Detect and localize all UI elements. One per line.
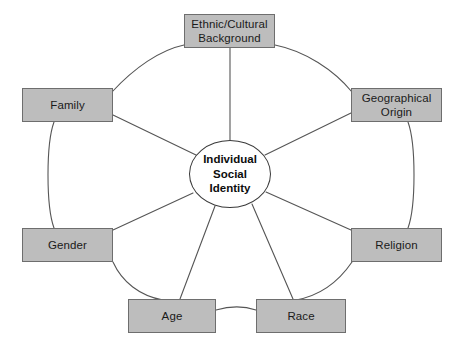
node-religion[interactable]: Religion [351,228,442,262]
node-age[interactable]: Age [128,299,216,333]
node-family[interactable]: Family [22,88,113,122]
node-label-gender: Gender [45,238,90,252]
node-label-family: Family [47,98,87,112]
arc-religion-to-race [296,262,352,300]
spoke-gender [113,193,193,230]
node-ethnic-cultural-background[interactable]: Ethnic/Cultural Background [184,14,275,48]
spoke-geographical-origin [265,113,351,155]
node-gender[interactable]: Gender [22,228,113,262]
center-node-individual-social-identity[interactable]: Individual Social Identity [189,140,271,208]
node-label-race: Race [284,309,317,323]
arc-family-to-ethnic [112,45,184,92]
spoke-race [252,204,293,299]
center-node-label: Individual Social Identity [203,152,257,196]
arc-ethnic-to-geographical [275,45,352,92]
node-label-age: Age [159,309,186,323]
spoke-family [113,115,196,155]
social-identity-diagram: Ethnic/Cultural Background Geographical … [0,0,462,353]
arc-race-to-age [216,307,256,310]
node-label-geographical-origin: Geographical Origin [359,91,435,119]
node-geographical-origin[interactable]: Geographical Origin [351,88,442,122]
node-race[interactable]: Race [256,299,346,333]
arc-age-to-gender [113,262,163,300]
arc-gender-to-family-left [48,122,54,228]
spoke-age [180,206,215,299]
arc-geographical-to-religion [408,122,414,228]
node-label-religion: Religion [372,238,420,252]
spoke-religion [266,192,351,230]
node-label-ethnic-cultural-background: Ethnic/Cultural Background [188,17,270,45]
